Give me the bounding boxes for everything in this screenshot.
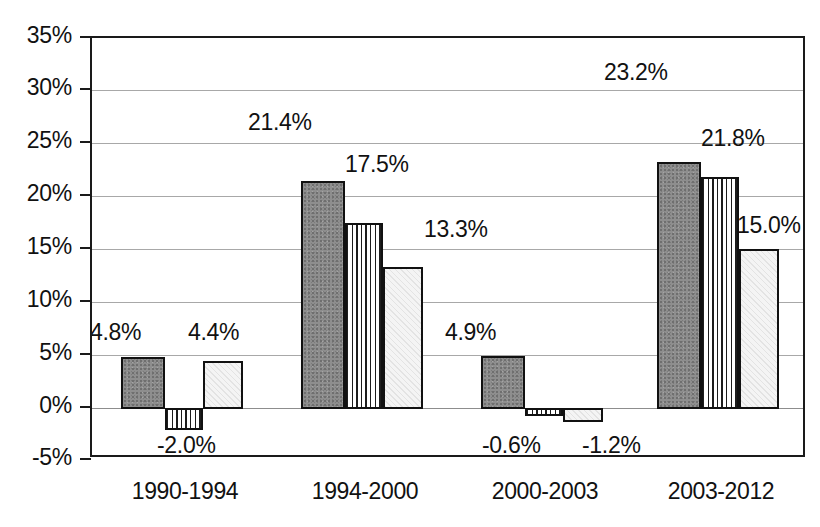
gridline-25	[92, 143, 803, 144]
bar-1994-2000-series-2	[345, 223, 383, 409]
bar-1990-1994-series-1	[121, 357, 165, 409]
y-tick-label-25: 25%	[2, 129, 72, 152]
bar-2000-2003-series-2	[525, 408, 563, 416]
plot-area: 4.8% -2.0% 4.4% 21.4% 17.5% 13.3% 4.9% -…	[90, 36, 805, 457]
bar-2000-2003-series-1	[481, 356, 525, 409]
y-tick-label-35: 35%	[2, 24, 72, 47]
bar-chart: 35% 30% 25% 20% 15% 10% 5% 0% -5%	[0, 0, 820, 527]
y-tick-label-20: 20%	[2, 182, 72, 205]
y-tick-label-30: 30%	[2, 76, 72, 99]
y-tick-label-15: 15%	[2, 235, 72, 258]
bar-1990-1994-series-2	[165, 408, 203, 430]
y-tick-label-10: 10%	[2, 288, 72, 311]
gridline-30	[92, 90, 803, 91]
bar-1994-2000-series-3	[383, 267, 423, 409]
data-label-2000-2003-series-1: 4.9%	[445, 321, 496, 344]
data-label-1994-2000-series-2: 17.5%	[345, 153, 409, 176]
bar-2003-2012-series-1	[657, 162, 701, 409]
y-tick-label-5: 5%	[2, 341, 72, 364]
y-tick-mark-minus5	[80, 458, 91, 460]
bar-1994-2000-series-1	[301, 181, 345, 409]
data-label-1990-1994-series-1: 4.8%	[90, 321, 141, 344]
y-tick-label-minus5: -5%	[2, 446, 72, 469]
data-label-1994-2000-series-1: 21.4%	[248, 111, 312, 134]
data-label-1990-1994-series-2: -2.0%	[157, 434, 216, 457]
data-label-2003-2012-series-3: 15.0%	[737, 214, 801, 237]
data-label-2003-2012-series-1: 23.2%	[604, 61, 668, 84]
data-label-1990-1994-series-3: 4.4%	[188, 321, 239, 344]
x-axis-label-2003-2012: 2003-2012	[655, 478, 787, 504]
data-label-2000-2003-series-3: -1.2%	[582, 434, 641, 457]
y-tick-label-0: 0%	[2, 394, 72, 417]
bar-2003-2012-series-3	[739, 249, 779, 409]
x-axis-label-1990-1994: 1990-1994	[119, 478, 251, 504]
data-label-2000-2003-series-2: -0.6%	[482, 434, 541, 457]
data-label-2003-2012-series-2: 21.8%	[701, 127, 765, 150]
bar-1990-1994-series-3	[203, 361, 243, 409]
bar-2003-2012-series-2	[701, 177, 739, 409]
x-axis-label-1994-2000: 1994-2000	[299, 478, 431, 504]
bar-2000-2003-series-3	[563, 408, 603, 422]
data-label-1994-2000-series-3: 13.3%	[424, 218, 488, 241]
x-axis-label-2000-2003: 2000-2003	[479, 478, 611, 504]
